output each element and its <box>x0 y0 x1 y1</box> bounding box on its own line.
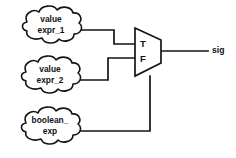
cloud-text-line2: expr_1 <box>37 25 64 35</box>
mux-true-label: T <box>140 38 146 49</box>
mux-trapezoid[interactable] <box>135 28 161 76</box>
wire-expr1-to-mux-t <box>73 30 135 44</box>
diagram-canvas: T F value expr_1 value expr_2 boolean_ e… <box>0 0 236 158</box>
cloud-text-line1: value <box>40 14 62 24</box>
cloud-text-line1: value <box>39 64 61 74</box>
cloud-value-expr-2[interactable]: value expr_2 <box>22 56 81 93</box>
output-signal-label: sig <box>212 45 224 55</box>
wire-expr2-to-mux-f <box>72 58 135 80</box>
wire-boolean-to-mux-select <box>72 76 150 131</box>
signal-assignment-diagram: T F value expr_1 value expr_2 boolean_ e… <box>0 0 236 158</box>
cloud-boolean-exp[interactable]: boolean_ exp <box>22 107 81 144</box>
cloud-text-line1: boolean_ <box>32 115 69 125</box>
cloud-value-expr-1[interactable]: value expr_1 <box>23 6 82 43</box>
cloud-text-line2: expr_2 <box>36 75 63 85</box>
mux-false-label: F <box>140 53 146 64</box>
cloud-text-line2: exp <box>43 126 57 136</box>
